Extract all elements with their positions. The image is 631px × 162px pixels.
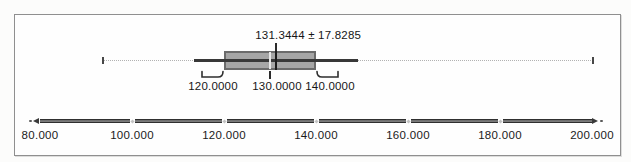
axis-tick-mark — [222, 119, 226, 123]
plot-scale-area: 131.3444 ± 17.8285 120.0000 130.0000 140… — [40, 15, 592, 155]
figure: 131.3444 ± 17.8285 120.0000 130.0000 140… — [0, 0, 631, 162]
axis-end-arrow-left — [33, 118, 39, 124]
axis-tick-label: 160.000 — [386, 129, 430, 142]
axis-tick-mark — [314, 119, 318, 123]
axis-tick-label: 120.000 — [202, 129, 246, 142]
bracket-left — [202, 72, 223, 78]
axis-end-dot-right — [600, 120, 603, 122]
axis-tick-label: 180.000 — [478, 129, 522, 142]
axis-tick-label: 100.000 — [110, 129, 154, 142]
range-end-tick-right — [592, 57, 594, 64]
axis-tick-label: 200.000 — [570, 129, 614, 142]
axis-end-dot-left — [29, 120, 32, 122]
axis-tick-mark — [406, 119, 410, 123]
axis-tick-mark — [498, 119, 502, 123]
bracket-overlay — [40, 15, 592, 85]
axis-tick-label: 80.000 — [22, 129, 59, 142]
axis-tick-label: 140.000 — [294, 129, 338, 142]
plot-frame: 131.3444 ± 17.8285 120.0000 130.0000 140… — [14, 14, 621, 156]
axis-tick-mark — [130, 119, 134, 123]
bracket-right — [317, 72, 338, 78]
axis-end-arrow-right — [592, 118, 598, 124]
